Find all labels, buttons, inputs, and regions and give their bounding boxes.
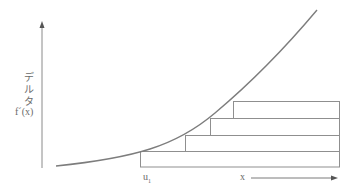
step-rect-1 <box>141 152 340 168</box>
y-axis-arrowhead-icon <box>40 21 45 28</box>
step-rect-4 <box>234 102 340 119</box>
x-direction-arrowhead-icon <box>331 176 338 181</box>
start-point-subscript: 1 <box>148 178 151 184</box>
step-rect-2 <box>186 136 340 152</box>
x-direction-label: x <box>240 172 245 182</box>
step-rect-3 <box>211 119 340 136</box>
diagram-canvas <box>0 0 361 189</box>
function-curve <box>56 10 317 166</box>
step-rectangles <box>141 102 340 168</box>
start-point-label: u1 <box>143 172 151 184</box>
y-axis-label-char-2: ル <box>23 84 35 96</box>
y-axis-function-label: f´(x) <box>15 107 33 117</box>
y-axis-label-char-1: デ <box>23 72 35 84</box>
